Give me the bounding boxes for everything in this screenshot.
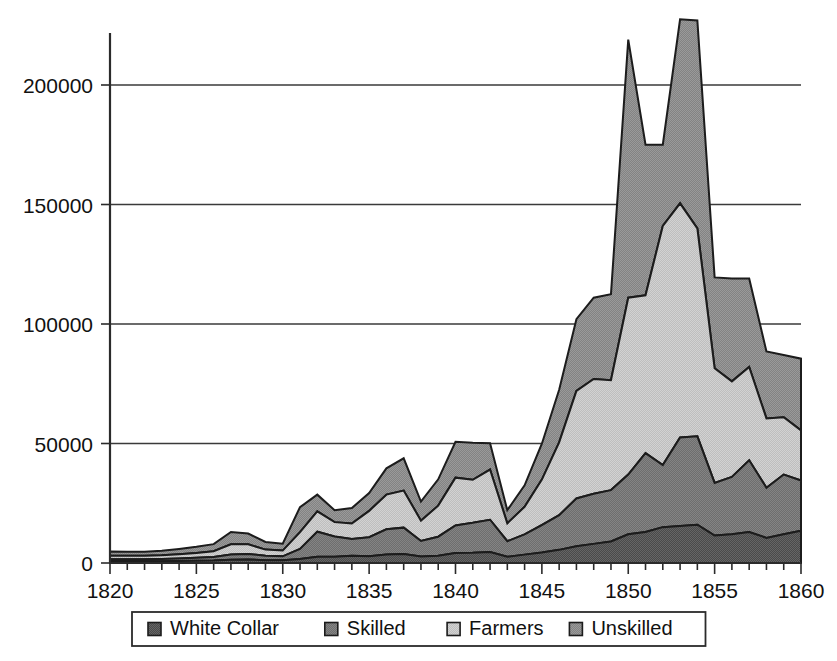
legend-swatch-skilled — [325, 623, 338, 636]
legend-swatch-unskilled — [569, 623, 582, 636]
y-tick-label: 200000 — [23, 74, 93, 97]
stacked-area-chart: 050000100000150000200000 182018251830183… — [0, 0, 837, 661]
legend-label-white-collar: White Collar — [170, 617, 279, 639]
x-tick-label: 1840 — [432, 579, 479, 602]
y-tick-label: 150000 — [23, 194, 93, 217]
y-tick-label: 50000 — [35, 433, 93, 456]
x-tick-label: 1855 — [691, 579, 738, 602]
x-tick-label: 1860 — [778, 579, 825, 602]
legend-swatch-white-collar — [148, 623, 161, 636]
x-tick-label: 1830 — [259, 579, 306, 602]
legend-label-unskilled: Unskilled — [591, 617, 672, 639]
x-tick-label: 1845 — [519, 579, 566, 602]
x-tick-label: 1835 — [346, 579, 393, 602]
y-tick-label: 0 — [81, 552, 93, 575]
x-tick-label: 1820 — [87, 579, 134, 602]
y-tick-label: 100000 — [23, 313, 93, 336]
x-tick-label: 1850 — [605, 579, 652, 602]
chart-legend: White CollarSkilledFarmersUnskilled — [132, 612, 706, 646]
x-tick-label: 1825 — [173, 579, 220, 602]
chart-container: 050000100000150000200000 182018251830183… — [0, 0, 837, 661]
legend-swatch-farmers — [447, 623, 460, 636]
legend-label-skilled: Skilled — [347, 617, 406, 639]
legend-label-farmers: Farmers — [469, 617, 543, 639]
